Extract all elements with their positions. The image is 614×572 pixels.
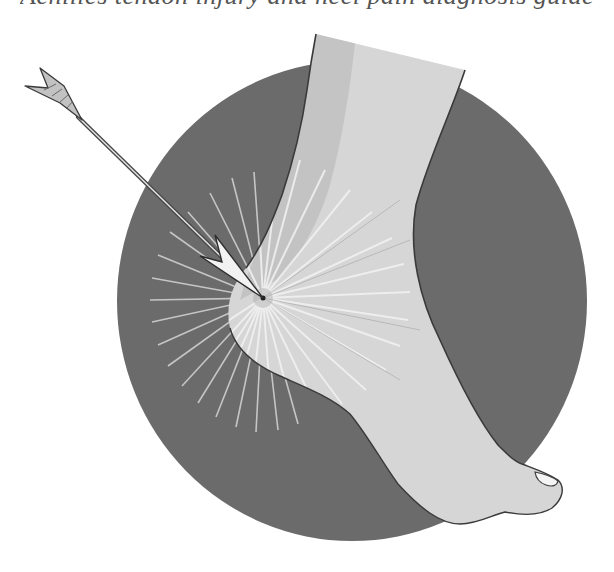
achilles-heel-illustration (0, 0, 614, 572)
